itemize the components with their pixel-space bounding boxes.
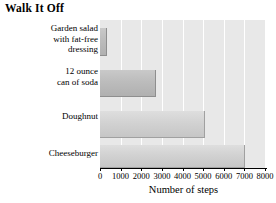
gridline-8000 [265, 20, 266, 168]
y-axis-label-cheeseburger: Cheeseburger [2, 148, 98, 159]
x-axis-title: Number of steps [100, 184, 267, 195]
chart-figure: Walk It Off Garden salad with fat-free d… [0, 0, 276, 203]
y-axis-label-garden-salad: Garden salad with fat-free dressing [2, 23, 98, 55]
y-label-line: Cheeseburger [2, 148, 98, 159]
y-label-line: with fat-free [2, 34, 98, 45]
y-label-line: dressing [2, 44, 98, 55]
y-label-line: Garden salad [2, 23, 98, 34]
y-label-line: can of soda [2, 77, 98, 88]
bar-doughnut [100, 111, 205, 138]
chart-title: Walk It Off [5, 2, 64, 14]
plot-area [100, 20, 266, 168]
x-axis-line [100, 168, 267, 169]
y-label-line: 12 ounce [2, 66, 98, 77]
y-label-line: Doughnut [2, 111, 98, 122]
y-axis-label-soda: 12 ounce can of soda [2, 66, 98, 87]
bar-soda [100, 70, 156, 97]
bar-garden-salad [100, 28, 107, 56]
y-axis-label-doughnut: Doughnut [2, 111, 98, 122]
x-tick-label-8000: 8000 [245, 171, 276, 181]
bar-cheeseburger [100, 145, 245, 168]
